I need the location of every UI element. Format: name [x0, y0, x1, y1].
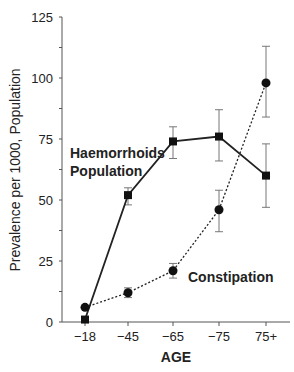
x-tick-label: −75 [208, 329, 230, 344]
y-tick-label: 25 [39, 254, 53, 269]
x-axis-label: AGE [161, 349, 191, 365]
y-tick-label: 0 [46, 315, 53, 330]
square-marker [215, 133, 223, 141]
square-marker [124, 191, 132, 199]
y-tick-label: 100 [31, 71, 53, 86]
prevalence-chart: 0255075100125−18−45−65−7575+ Haemorrhoid… [0, 0, 294, 372]
y-tick-label: 125 [31, 10, 53, 25]
square-marker [262, 172, 270, 180]
square-marker [169, 137, 177, 145]
circle-marker [81, 303, 90, 312]
series-layer: HaemorrhoidsPopulationConstipation [70, 46, 274, 323]
x-tick-label: −65 [162, 329, 184, 344]
y-tick-label: 50 [39, 193, 53, 208]
haemorrhoids-label: Population [70, 163, 142, 179]
haemorrhoids-label: Haemorrhoids [70, 145, 165, 161]
series-haemorrhoids [81, 110, 270, 324]
circle-marker [124, 288, 133, 297]
circle-marker [169, 266, 178, 275]
circle-marker [262, 78, 271, 87]
x-tick-label: −18 [74, 329, 96, 344]
circle-marker [215, 205, 224, 214]
square-marker [81, 316, 89, 324]
y-tick-label: 75 [39, 132, 53, 147]
constipation-label: Constipation [188, 269, 274, 285]
x-tick-label: 75+ [255, 329, 277, 344]
y-axis-label: Prevalence per 1000, Population [7, 68, 23, 271]
x-tick-label: −45 [117, 329, 139, 344]
